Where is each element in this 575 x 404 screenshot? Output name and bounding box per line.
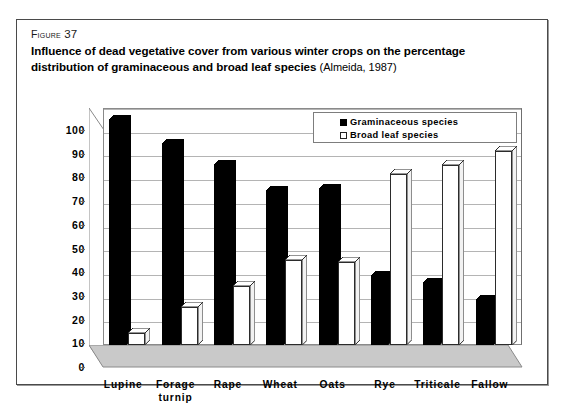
- legend-swatch-icon: [340, 119, 347, 126]
- y-axis-tick: [80, 367, 85, 368]
- bar-face: [423, 283, 440, 345]
- bar-group: [470, 108, 522, 345]
- x-axis-tick-line: Rape: [202, 378, 254, 391]
- bar-side-3d: [407, 169, 412, 340]
- bar-face: [338, 262, 355, 345]
- bar-top-3d: [214, 160, 231, 165]
- bar-top-3d: [423, 278, 440, 283]
- y-axis-tick: [80, 177, 85, 178]
- legend-label: Broad leaf species: [350, 130, 438, 140]
- bar-side-3d: [512, 146, 517, 340]
- bar-face: [476, 300, 493, 345]
- bar-top-3d: [162, 139, 179, 144]
- bar-top-3d: [495, 146, 512, 151]
- x-axis-tick-label: Wheat: [254, 378, 306, 391]
- bars-layer: [103, 108, 522, 345]
- bar-top-3d: [338, 257, 355, 262]
- bar-face: [162, 144, 179, 345]
- bar-group: [103, 108, 155, 345]
- x-axis-tick-line: Wheat: [254, 378, 306, 391]
- y-axis: 0102030405060708090100: [53, 86, 85, 376]
- bar-broad-leaf: [233, 286, 250, 345]
- x-axis-tick-label: Lupine: [97, 378, 149, 391]
- bar-broad-leaf: [390, 174, 407, 345]
- bar-face: [214, 165, 231, 345]
- x-axis-tick-label: Forageturnip: [149, 378, 201, 404]
- figure-caption-block: Figure 37 Influence of dead vegetative c…: [31, 27, 531, 75]
- bar-top-3d: [371, 271, 388, 276]
- bar-broad-leaf: [285, 260, 302, 345]
- plot-left-wall: [89, 108, 104, 367]
- bar-group: [208, 108, 260, 345]
- y-axis-tick: [80, 130, 85, 131]
- x-axis-tick-line: Lupine: [97, 378, 149, 391]
- bar-face: [390, 174, 407, 345]
- bar-broad-leaf: [442, 165, 459, 345]
- bar-graminaceous: [371, 276, 388, 345]
- figure-caption-text: Influence of dead vegetative cover from …: [31, 43, 531, 75]
- figure-caption-main: Influence of dead vegetative cover from …: [31, 44, 465, 73]
- bar-top-3d: [285, 255, 302, 260]
- x-axis-tick-label: Rye: [359, 378, 411, 391]
- bar-broad-leaf: [128, 333, 145, 345]
- y-axis-tick: [80, 343, 85, 344]
- bar-graminaceous: [423, 283, 440, 345]
- bar-top-3d: [390, 169, 407, 174]
- bar-top-3d: [319, 184, 336, 189]
- bar-top-3d: [442, 160, 459, 165]
- y-axis-tick: [80, 249, 85, 250]
- bar-face: [285, 260, 302, 345]
- legend-swatch-icon: [340, 132, 347, 139]
- figure-number-value: 37: [64, 28, 77, 40]
- y-axis-tick: [80, 320, 85, 321]
- figure-number: Figure 37: [31, 27, 531, 41]
- bar-broad-leaf: [181, 307, 198, 345]
- bar-face: [109, 120, 126, 345]
- bar-top-3d: [128, 328, 145, 333]
- bar-graminaceous: [319, 189, 336, 345]
- y-axis-tick: [80, 225, 85, 226]
- bar-side-3d: [250, 281, 255, 340]
- x-axis-tick-line: Triticale: [411, 378, 463, 391]
- x-axis-tick-line: Forage: [149, 378, 201, 391]
- x-axis-tick-label: Triticale: [411, 378, 463, 391]
- bar-side-3d: [198, 302, 203, 340]
- bar-group: [260, 108, 312, 345]
- x-axis-tick-line: Rye: [359, 378, 411, 391]
- bar-face: [371, 276, 388, 345]
- bar-side-3d: [355, 257, 360, 340]
- bar-graminaceous: [214, 165, 231, 345]
- chart-plot: 0102030405060708090100 Graminaceous spec…: [53, 86, 537, 376]
- bar-face: [233, 286, 250, 345]
- x-axis-tick-line: turnip: [149, 391, 201, 404]
- bar-face: [266, 191, 283, 345]
- bar-group: [365, 108, 417, 345]
- figure-caption-source: (Almeida, 1987): [320, 61, 397, 73]
- y-axis-tick: [80, 296, 85, 297]
- bar-graminaceous: [109, 120, 126, 345]
- x-axis-tick-label: Rape: [202, 378, 254, 391]
- bar-top-3d: [181, 302, 198, 307]
- bar-top-3d: [476, 295, 493, 300]
- bar-side-3d: [126, 115, 131, 340]
- x-axis-tick-label: Oats: [307, 378, 359, 391]
- bar-graminaceous: [162, 144, 179, 345]
- bar-broad-leaf: [338, 262, 355, 345]
- bar-group: [417, 108, 469, 345]
- figure-frame: Figure 37 Influence of dead vegetative c…: [16, 19, 548, 385]
- bar-group: [313, 108, 365, 345]
- bar-face: [495, 151, 512, 345]
- y-axis-tick: [80, 272, 85, 273]
- x-axis-tick-line: Fallow: [464, 378, 516, 391]
- bar-graminaceous: [476, 300, 493, 345]
- figure-number-prefix: Figure: [31, 28, 61, 40]
- bar-side-3d: [459, 160, 464, 340]
- bar-top-3d: [266, 186, 283, 191]
- x-axis-tick-label: Fallow: [464, 378, 516, 391]
- bar-group: [155, 108, 207, 345]
- chart-legend: Graminaceous speciesBroad leaf species: [313, 112, 517, 143]
- bar-face: [128, 333, 145, 345]
- plot-floor: [89, 345, 537, 369]
- legend-entry: Graminaceous species: [340, 116, 516, 128]
- legend-label: Graminaceous species: [350, 117, 458, 127]
